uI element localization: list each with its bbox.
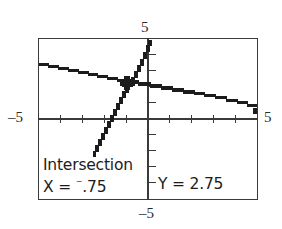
axis-label-bottom: –5 bbox=[139, 206, 154, 221]
series-line-2-steep-increasing bbox=[91, 40, 152, 163]
axis-label-right: 5 bbox=[264, 110, 272, 125]
graphing-calculator-screen: 5 –5 –5 5 bbox=[0, 0, 282, 229]
plot-canvas bbox=[39, 39, 257, 199]
axis-label-left: –5 bbox=[8, 110, 23, 125]
axis-label-top: 5 bbox=[141, 20, 149, 35]
plot-viewport[interactable]: Intersection X = ⁻.75 Y = 2.75 bbox=[38, 38, 258, 200]
